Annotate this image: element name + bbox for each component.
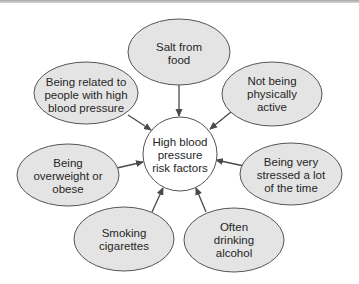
- node-alcohol: Often drinking alcohol: [184, 208, 284, 272]
- risk-factor-diagram: Salt from food Being related to people w…: [0, 0, 359, 284]
- node-overweight: Being overweight or obese: [17, 144, 119, 206]
- arrow-smoking: [152, 188, 163, 212]
- node-smoking: Smoking cigarettes: [74, 207, 174, 271]
- node-inactive-line-3: active: [257, 101, 287, 113]
- node-related-line-2: people with high: [44, 89, 127, 101]
- node-inactive-line-1: Not being: [247, 75, 296, 87]
- arrow-overweight: [117, 162, 143, 168]
- node-salt: Salt from food: [128, 19, 230, 85]
- node-stressed-line-1: Being very: [264, 156, 319, 168]
- arrow-inactive: [210, 112, 231, 129]
- node-salt-line-2: food: [168, 54, 190, 66]
- node-stressed-line-2: stressed a lot: [257, 169, 326, 181]
- center-line-3: risk factors: [152, 162, 208, 174]
- node-stressed: Being very stressed a lot of the time: [240, 143, 342, 205]
- node-alcohol-line-3: alcohol: [216, 247, 252, 259]
- center-line-1: High blood: [153, 136, 208, 148]
- node-inactive-line-2: physically: [247, 88, 297, 100]
- node-stressed-line-3: of the time: [264, 182, 318, 194]
- node-related-line-1: Being related to: [46, 76, 127, 88]
- node-smoking-line-1: Smoking: [102, 227, 147, 239]
- node-salt-line-1: Salt from: [156, 41, 202, 53]
- node-inactive: Not being physically active: [222, 62, 322, 126]
- node-smoking-line-2: cigarettes: [99, 240, 149, 252]
- node-overweight-line-1: Being: [53, 157, 82, 169]
- node-related: Being related to people with high blood …: [34, 62, 138, 124]
- node-alcohol-line-1: Often: [220, 221, 248, 233]
- node-center: High blood pressure risk factors: [143, 117, 217, 191]
- node-related-line-3: blood pressure: [48, 102, 124, 114]
- node-overweight-line-2: overweight or: [33, 170, 102, 182]
- node-overweight-line-3: obese: [52, 183, 83, 195]
- arrow-stressed: [216, 160, 244, 166]
- center-line-2: pressure: [158, 149, 203, 161]
- arrow-alcohol: [196, 188, 206, 212]
- node-alcohol-line-2: drinking: [214, 234, 254, 246]
- arrow-related: [128, 115, 151, 130]
